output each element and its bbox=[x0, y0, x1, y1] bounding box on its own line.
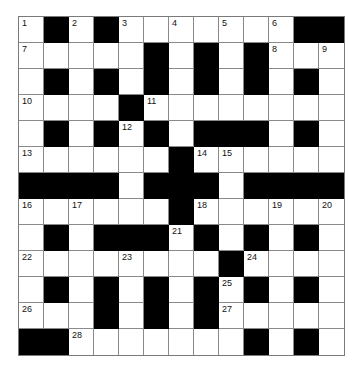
answer-cell[interactable] bbox=[119, 277, 144, 303]
answer-cell[interactable] bbox=[294, 43, 319, 69]
answer-cell[interactable] bbox=[44, 199, 69, 225]
answer-cell[interactable]: 6 bbox=[269, 17, 294, 43]
answer-cell[interactable] bbox=[169, 303, 194, 329]
answer-cell[interactable] bbox=[269, 147, 294, 173]
answer-cell[interactable] bbox=[269, 225, 294, 251]
answer-cell[interactable]: 13 bbox=[19, 147, 44, 173]
answer-cell[interactable] bbox=[269, 95, 294, 121]
answer-cell[interactable]: 2 bbox=[69, 17, 94, 43]
answer-cell[interactable]: 16 bbox=[19, 199, 44, 225]
answer-cell[interactable] bbox=[319, 225, 344, 251]
answer-cell[interactable] bbox=[69, 277, 94, 303]
answer-cell[interactable] bbox=[69, 303, 94, 329]
answer-cell[interactable]: 5 bbox=[219, 17, 244, 43]
answer-cell[interactable] bbox=[194, 17, 219, 43]
answer-cell[interactable]: 26 bbox=[19, 303, 44, 329]
answer-cell[interactable] bbox=[269, 277, 294, 303]
answer-cell[interactable]: 17 bbox=[69, 199, 94, 225]
answer-cell[interactable] bbox=[19, 225, 44, 251]
answer-cell[interactable] bbox=[219, 173, 244, 199]
answer-cell[interactable] bbox=[269, 303, 294, 329]
answer-cell[interactable] bbox=[94, 95, 119, 121]
answer-cell[interactable]: 21 bbox=[169, 225, 194, 251]
answer-cell[interactable] bbox=[119, 147, 144, 173]
answer-cell[interactable] bbox=[119, 303, 144, 329]
answer-cell[interactable] bbox=[44, 251, 69, 277]
answer-cell[interactable] bbox=[194, 251, 219, 277]
answer-cell[interactable] bbox=[319, 147, 344, 173]
answer-cell[interactable] bbox=[319, 277, 344, 303]
answer-cell[interactable] bbox=[319, 251, 344, 277]
answer-cell[interactable] bbox=[119, 43, 144, 69]
answer-cell[interactable] bbox=[244, 147, 269, 173]
answer-cell[interactable]: 10 bbox=[19, 95, 44, 121]
answer-cell[interactable] bbox=[294, 303, 319, 329]
answer-cell[interactable]: 8 bbox=[269, 43, 294, 69]
answer-cell[interactable] bbox=[319, 95, 344, 121]
answer-cell[interactable] bbox=[244, 303, 269, 329]
answer-cell[interactable] bbox=[144, 17, 169, 43]
answer-cell[interactable] bbox=[169, 43, 194, 69]
answer-cell[interactable] bbox=[319, 121, 344, 147]
answer-cell[interactable] bbox=[44, 95, 69, 121]
answer-cell[interactable] bbox=[119, 199, 144, 225]
answer-cell[interactable] bbox=[269, 121, 294, 147]
answer-cell[interactable] bbox=[19, 69, 44, 95]
answer-cell[interactable] bbox=[119, 329, 144, 355]
answer-cell[interactable] bbox=[169, 277, 194, 303]
answer-cell[interactable] bbox=[219, 199, 244, 225]
answer-cell[interactable] bbox=[269, 251, 294, 277]
answer-cell[interactable] bbox=[294, 95, 319, 121]
answer-cell[interactable] bbox=[319, 329, 344, 355]
answer-cell[interactable] bbox=[169, 95, 194, 121]
answer-cell[interactable] bbox=[169, 69, 194, 95]
answer-cell[interactable] bbox=[194, 329, 219, 355]
answer-cell[interactable] bbox=[169, 121, 194, 147]
answer-cell[interactable]: 4 bbox=[169, 17, 194, 43]
answer-cell[interactable] bbox=[94, 199, 119, 225]
answer-cell[interactable]: 28 bbox=[69, 329, 94, 355]
answer-cell[interactable] bbox=[144, 147, 169, 173]
answer-cell[interactable]: 15 bbox=[219, 147, 244, 173]
answer-cell[interactable]: 27 bbox=[219, 303, 244, 329]
answer-cell[interactable] bbox=[219, 329, 244, 355]
answer-cell[interactable] bbox=[319, 303, 344, 329]
answer-cell[interactable]: 24 bbox=[244, 251, 269, 277]
answer-cell[interactable]: 1 bbox=[19, 17, 44, 43]
answer-cell[interactable] bbox=[194, 95, 219, 121]
answer-cell[interactable] bbox=[294, 147, 319, 173]
answer-cell[interactable] bbox=[269, 69, 294, 95]
answer-cell[interactable] bbox=[244, 17, 269, 43]
answer-cell[interactable] bbox=[94, 147, 119, 173]
answer-cell[interactable] bbox=[294, 199, 319, 225]
answer-cell[interactable] bbox=[169, 251, 194, 277]
answer-cell[interactable]: 18 bbox=[194, 199, 219, 225]
answer-cell[interactable] bbox=[144, 329, 169, 355]
answer-cell[interactable] bbox=[44, 147, 69, 173]
answer-cell[interactable]: 12 bbox=[119, 121, 144, 147]
answer-cell[interactable]: 22 bbox=[19, 251, 44, 277]
answer-cell[interactable] bbox=[144, 199, 169, 225]
answer-cell[interactable] bbox=[219, 95, 244, 121]
answer-cell[interactable] bbox=[44, 303, 69, 329]
answer-cell[interactable] bbox=[244, 199, 269, 225]
answer-cell[interactable]: 20 bbox=[319, 199, 344, 225]
answer-cell[interactable] bbox=[94, 251, 119, 277]
answer-cell[interactable]: 25 bbox=[219, 277, 244, 303]
answer-cell[interactable]: 11 bbox=[144, 95, 169, 121]
answer-cell[interactable]: 7 bbox=[19, 43, 44, 69]
answer-cell[interactable]: 23 bbox=[119, 251, 144, 277]
answer-cell[interactable] bbox=[94, 329, 119, 355]
answer-cell[interactable]: 9 bbox=[319, 43, 344, 69]
answer-cell[interactable] bbox=[144, 251, 169, 277]
answer-cell[interactable] bbox=[69, 43, 94, 69]
answer-cell[interactable] bbox=[119, 173, 144, 199]
answer-cell[interactable] bbox=[169, 329, 194, 355]
answer-cell[interactable] bbox=[219, 225, 244, 251]
answer-cell[interactable] bbox=[69, 147, 94, 173]
answer-cell[interactable] bbox=[19, 121, 44, 147]
answer-cell[interactable] bbox=[294, 251, 319, 277]
answer-cell[interactable] bbox=[319, 69, 344, 95]
answer-cell[interactable] bbox=[69, 225, 94, 251]
answer-cell[interactable] bbox=[69, 95, 94, 121]
